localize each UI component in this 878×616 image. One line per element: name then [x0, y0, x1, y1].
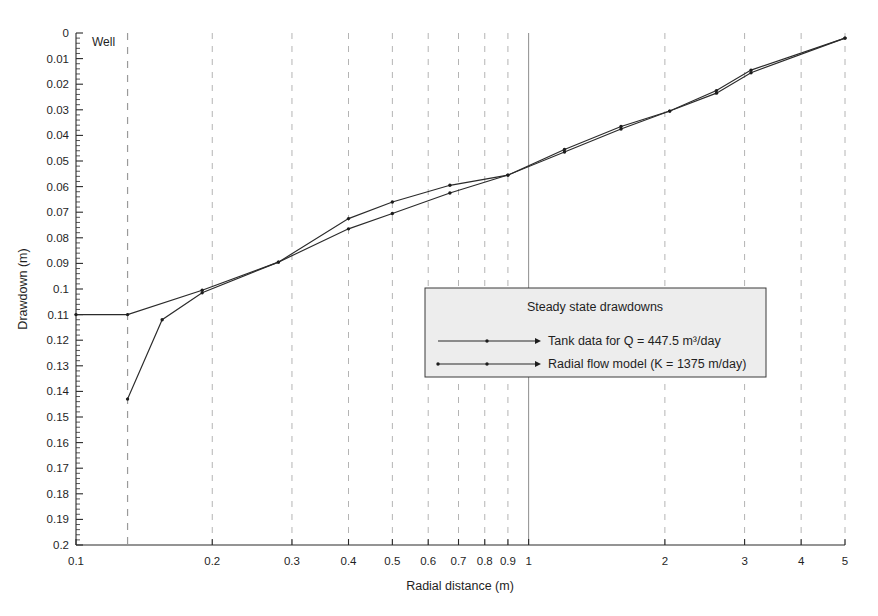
legend-swatch-marker-1a — [436, 362, 439, 365]
x-tick-label-0.3: 0.3 — [284, 555, 300, 567]
series-marker-0-6 — [448, 184, 451, 187]
x-tick-label-0.1: 0.1 — [68, 555, 84, 567]
y-tick-label-0.04: 0.04 — [47, 129, 70, 141]
series-marker-1-5 — [391, 212, 394, 215]
y-tick-label-0.18: 0.18 — [47, 488, 69, 500]
series-marker-1-1 — [126, 313, 129, 316]
x-tick-label-1: 1 — [525, 555, 531, 567]
legend-swatch-marker-0 — [485, 339, 488, 342]
series-marker-1-3 — [277, 260, 280, 263]
series-marker-0-0 — [126, 397, 129, 400]
series-marker-1-8 — [563, 150, 566, 153]
series-marker-1-2 — [200, 289, 203, 292]
series-marker-1-7 — [506, 173, 509, 176]
y-tick-label-0.12: 0.12 — [47, 334, 69, 346]
y-tick-label-0.07: 0.07 — [47, 206, 69, 218]
y-tick-label-0.08: 0.08 — [47, 232, 69, 244]
x-tick-label-0.6: 0.6 — [420, 555, 436, 567]
series-marker-1-10 — [668, 109, 671, 112]
series-marker-0-4 — [347, 217, 350, 220]
x-tick-label-5: 5 — [842, 555, 848, 567]
y-tick-label-0.09: 0.09 — [47, 257, 69, 269]
series-marker-1-11 — [715, 91, 718, 94]
y-tick-label-0.17: 0.17 — [47, 462, 69, 474]
y-tick-label-0.06: 0.06 — [47, 181, 69, 193]
y-tick-label-0.16: 0.16 — [47, 437, 69, 449]
series-marker-1-4 — [347, 227, 350, 230]
y-tick-label-0.01: 0.01 — [47, 53, 69, 65]
x-tick-label-0.9: 0.9 — [500, 555, 516, 567]
x-tick-label-0.2: 0.2 — [204, 555, 220, 567]
series-marker-1-12 — [749, 71, 752, 74]
y-tick-label-0.13: 0.13 — [47, 360, 69, 372]
x-tick-label-0.7: 0.7 — [451, 555, 467, 567]
x-tick-label-0.5: 0.5 — [384, 555, 400, 567]
legend-label-1: Radial flow model (K = 1375 m/day) — [548, 357, 746, 371]
y-tick-label-0.03: 0.03 — [47, 104, 69, 116]
y-tick-label-0.05: 0.05 — [47, 155, 69, 167]
y-tick-label-0.14: 0.14 — [47, 385, 70, 397]
series-marker-1-9 — [619, 127, 622, 130]
chart-canvas: 00.010.020.030.040.050.060.070.080.090.1… — [0, 0, 878, 616]
x-tick-label-2: 2 — [662, 555, 668, 567]
legend-swatch-marker-1b — [485, 362, 488, 365]
x-tick-label-3: 3 — [741, 555, 747, 567]
y-tick-label-0: 0 — [63, 27, 69, 39]
y-axis-title: Drawdown (m) — [16, 248, 30, 329]
x-tick-label-0.4: 0.4 — [341, 555, 358, 567]
y-tick-label-0.19: 0.19 — [47, 513, 69, 525]
series-marker-1-0 — [74, 313, 77, 316]
y-tick-label-0.15: 0.15 — [47, 411, 69, 423]
drawdown-chart: 00.010.020.030.040.050.060.070.080.090.1… — [0, 0, 878, 616]
y-tick-label-0.1: 0.1 — [53, 283, 69, 295]
series-marker-0-1 — [160, 318, 163, 321]
well-annotation: Well — [92, 35, 115, 49]
legend: Steady state drawdowns Tank data for Q =… — [425, 288, 766, 377]
y-tick-label-0.2: 0.2 — [53, 539, 69, 551]
y-tick-label-0.11: 0.11 — [47, 309, 69, 321]
legend-label-0: Tank data for Q = 447.5 m³/day — [548, 334, 721, 348]
x-tick-label-0.8: 0.8 — [477, 555, 493, 567]
series-marker-1-6 — [448, 191, 451, 194]
x-tick-label-4: 4 — [798, 555, 805, 567]
series-marker-1-13 — [843, 36, 846, 39]
y-tick-label-0.02: 0.02 — [47, 78, 69, 90]
legend-title: Steady state drawdowns — [527, 300, 663, 314]
x-axis-title: Radial distance (m) — [406, 579, 514, 593]
series-marker-0-5 — [391, 200, 394, 203]
